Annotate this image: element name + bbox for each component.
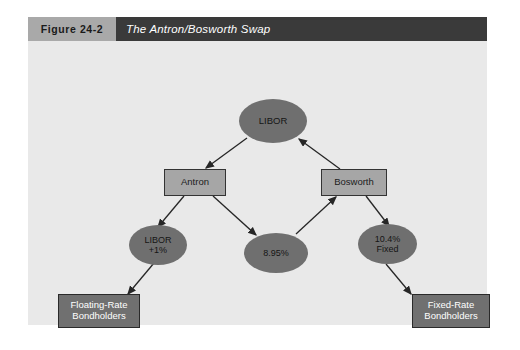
node-libor[interactable]: LIBOR	[239, 99, 307, 143]
node-libor-label: LIBOR	[259, 116, 288, 127]
node-fixed-10-4[interactable]: 10.4% Fixed	[358, 224, 417, 264]
node-libor-plus-1-label-line1: LIBOR	[144, 235, 171, 245]
node-bosworth-label: Bosworth	[334, 177, 374, 188]
figure-number-label: Figure 24-2	[28, 17, 116, 41]
node-rate-8-95-label: 8.95%	[263, 248, 289, 258]
diagram-canvas: LIBOR Antron Bosworth LIBOR +1% 8.95% 10…	[28, 41, 487, 325]
diagram-edge-layer	[28, 41, 487, 325]
node-fixed-10-4-label-line2: Fixed	[376, 244, 398, 254]
node-fixed-bondholders-label-line2: Bondholders	[424, 311, 477, 322]
edge-antron-to-libor-plus-1	[158, 196, 184, 227]
figure-panel: Figure 24-2 The Antron/Bosworth Swap	[28, 17, 487, 325]
node-floating-bondholders-label-line2: Bondholders	[72, 311, 125, 322]
node-floating-rate-bondholders[interactable]: Floating-Rate Bondholders	[58, 294, 140, 328]
figure-title-label: The Antron/Bosworth Swap	[116, 17, 487, 41]
node-fixed-rate-bondholders[interactable]: Fixed-Rate Bondholders	[412, 294, 490, 328]
edge-fixed-10-4-to-fixed-bondholders	[386, 264, 411, 294]
node-bosworth[interactable]: Bosworth	[321, 169, 387, 196]
figure-header: Figure 24-2 The Antron/Bosworth Swap	[28, 17, 487, 41]
node-libor-plus-1[interactable]: LIBOR +1%	[129, 225, 187, 265]
node-rate-8-95[interactable]: 8.95%	[244, 233, 308, 273]
edge-antron-to-rate-8-95	[213, 196, 256, 235]
edge-libor-to-antron	[206, 138, 247, 168]
node-antron[interactable]: Antron	[164, 169, 226, 196]
node-antron-label: Antron	[181, 177, 209, 188]
node-libor-plus-1-label-line2: +1%	[149, 245, 167, 255]
edge-rate-8-95-to-bosworth	[296, 197, 336, 234]
edge-bosworth-to-fixed-10-4	[366, 196, 389, 226]
edge-libor-plus-1-to-floating-bondholders	[128, 263, 154, 294]
edge-bosworth-to-libor	[299, 139, 340, 169]
node-fixed-10-4-label-line1: 10.4%	[375, 234, 401, 244]
